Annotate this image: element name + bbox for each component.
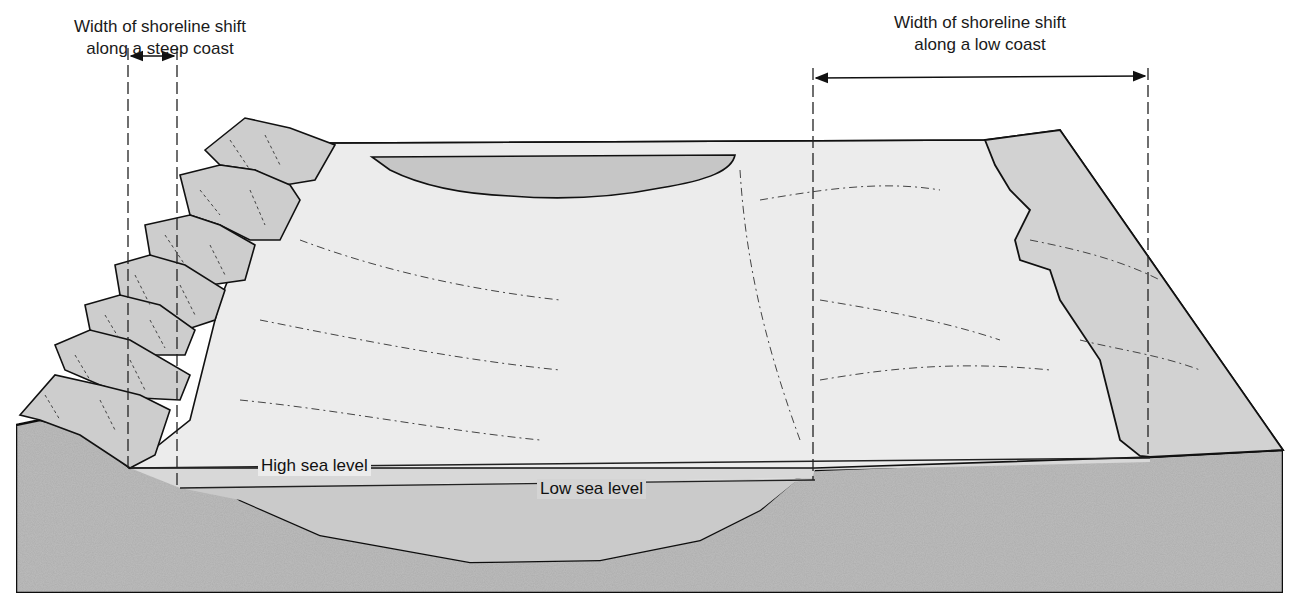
low-sea-level-label: Low sea level [537,479,646,499]
shoreline-diagram [0,0,1296,609]
low-coast-arrow [816,76,1145,78]
steep-coast-label-line2: along a steep coast [40,38,280,60]
low-coast-label-line2: along a low coast [860,34,1100,56]
low-coast-label-line1: Width of shoreline shift [860,12,1100,34]
steep-coast-label: Width of shoreline shift along a steep c… [40,16,280,60]
high-sea-level-label: High sea level [258,456,371,476]
steep-coast-label-line1: Width of shoreline shift [40,16,280,38]
low-coast-label: Width of shoreline shift along a low coa… [860,12,1100,56]
